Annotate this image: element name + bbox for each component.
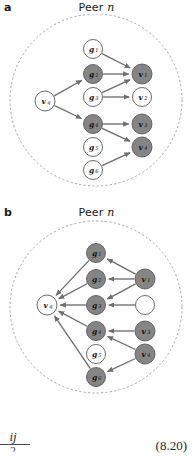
edge-vq-to-g2 xyxy=(54,80,82,96)
node-subscript: 5 xyxy=(95,145,98,151)
panel-b-title-prefix: Peer xyxy=(78,206,107,219)
node-g6: g6 xyxy=(87,368,106,387)
node-v3: v3 xyxy=(132,114,152,134)
node-g5: g5 xyxy=(84,138,103,157)
equation-fraction: ij 2 xyxy=(0,430,30,452)
node-subscript: 1 xyxy=(147,277,150,283)
node-g1: g1 xyxy=(87,244,106,263)
panel-b: b Peer n vqg1g2g3g4g5g6v1v3v4 xyxy=(0,205,193,405)
node-subscript: 3 xyxy=(98,303,101,309)
node-label: v xyxy=(43,301,48,310)
node-v1: v1 xyxy=(135,269,155,289)
panel-a-title-prefix: Peer xyxy=(78,1,107,14)
panel-a: a Peer n vqg1g2g3g4g5g6v1v2v3v4 xyxy=(0,0,193,200)
node-label: g xyxy=(92,327,97,336)
node-vu xyxy=(136,296,155,315)
figure-root: a Peer n vqg1g2g3g4g5g6v1v2v3v4 b Peer n… xyxy=(0,0,193,466)
edge-g4-to-v4 xyxy=(102,128,130,141)
node-g2: g2 xyxy=(84,65,103,84)
node-subscript: 1 xyxy=(95,47,98,53)
node-g4: g4 xyxy=(84,115,103,134)
node-layer: vqg1g2g3g4g5g6v1v3v4 xyxy=(37,244,155,387)
panel-a-graph: vqg1g2g3g4g5g6v1v2v3v4 xyxy=(0,14,193,200)
panel-b-title-italic: n xyxy=(107,206,114,219)
node-subscript: 4 xyxy=(143,145,147,151)
node-subscript: 2 xyxy=(94,72,98,78)
node-g6: g6 xyxy=(84,161,103,180)
node-label: g xyxy=(89,45,94,54)
node-label: g xyxy=(89,120,94,129)
node-vq: vq xyxy=(35,91,55,111)
node-v2: v2 xyxy=(133,88,152,107)
edge-g6-to-vq xyxy=(54,316,90,369)
edge-g1-to-v1 xyxy=(102,54,130,68)
node-label: g xyxy=(92,301,97,310)
equation-strip: ij 2 (8.20) xyxy=(0,420,193,466)
node-v4: v4 xyxy=(132,137,152,157)
equation-number: (8.20) xyxy=(156,438,187,454)
panel-a-title: Peer n xyxy=(0,1,193,14)
edge-g4-to-vq xyxy=(59,311,87,326)
node-v4: v4 xyxy=(135,344,155,364)
node-g3: g3 xyxy=(84,88,103,107)
edge-v1-to-g3 xyxy=(107,284,135,299)
edge-g3-to-v1 xyxy=(102,80,130,93)
node-subscript: 4 xyxy=(94,122,98,128)
edge-g6-to-v4 xyxy=(102,153,130,166)
edge-v1-to-g1 xyxy=(107,259,135,274)
node-g1: g1 xyxy=(84,40,103,59)
node-vq: vq xyxy=(37,295,57,315)
node-g2: g2 xyxy=(87,270,106,289)
edge-g1-to-vq xyxy=(56,260,89,295)
fraction-numerator: ij xyxy=(0,430,30,443)
edge-v4-to-g4 xyxy=(107,336,135,349)
node-subscript: q xyxy=(49,303,52,310)
node-label: g xyxy=(92,249,97,258)
node-v1: v1 xyxy=(132,64,152,84)
node-label: g xyxy=(89,93,94,102)
node-label: v xyxy=(138,143,143,152)
node-subscript: 4 xyxy=(146,352,150,358)
node-subscript: 3 xyxy=(95,95,98,101)
node-label: g xyxy=(92,350,97,359)
node-label: g xyxy=(89,166,94,175)
node-label: v xyxy=(138,93,143,102)
node-subscript: 5 xyxy=(98,352,101,358)
node-subscript: 1 xyxy=(98,251,101,257)
node-subscript: 4 xyxy=(97,329,101,335)
edge-vq-to-g4 xyxy=(55,106,82,119)
node-subscript: 2 xyxy=(97,277,101,283)
fraction-denominator: 2 xyxy=(0,445,30,452)
node-g4: g4 xyxy=(87,322,106,341)
node-label: v xyxy=(138,70,143,79)
node-label: v xyxy=(141,275,146,284)
node-label: v xyxy=(41,97,46,106)
node-label: g xyxy=(89,70,94,79)
node-subscript: 3 xyxy=(147,329,150,335)
node-circle xyxy=(136,296,155,315)
node-subscript: 3 xyxy=(144,122,147,128)
node-label: g xyxy=(89,143,94,152)
panel-a-title-italic: n xyxy=(107,1,114,14)
node-g5: g5 xyxy=(87,345,106,364)
node-v3: v3 xyxy=(135,321,155,341)
node-label: v xyxy=(138,120,143,129)
node-label: v xyxy=(141,327,146,336)
edge-v4-to-g6 xyxy=(107,359,135,372)
panel-b-title: Peer n xyxy=(0,206,193,219)
node-g3: g3 xyxy=(87,296,106,315)
node-label: v xyxy=(141,350,146,359)
node-subscript: 2 xyxy=(143,95,147,101)
node-label: g xyxy=(92,373,97,382)
panel-b-graph: vqg1g2g3g4g5g6v1v3v4 xyxy=(0,219,193,405)
node-label: g xyxy=(92,275,97,284)
node-layer: vqg1g2g3g4g5g6v1v2v3v4 xyxy=(35,40,152,180)
edge-g2-to-vq xyxy=(59,284,87,299)
node-subscript: 1 xyxy=(144,72,147,78)
node-subscript: q xyxy=(47,99,50,106)
